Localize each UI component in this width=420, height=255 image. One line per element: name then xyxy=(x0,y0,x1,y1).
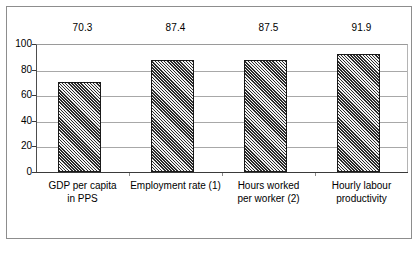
category-label-hourly-productivity: Hourly labour productivity xyxy=(315,180,408,220)
x-tick-mark xyxy=(129,173,130,176)
data-label-cell: 87.5 xyxy=(222,22,315,38)
data-label-value: 70.3 xyxy=(36,22,129,34)
y-tick-label: 40 xyxy=(4,116,32,126)
bar-slot xyxy=(244,44,287,172)
bar-chart: 70.3 87.4 87.5 91.9 100 80 60 40 20 0 xyxy=(0,0,420,255)
data-label-row: 70.3 87.4 87.5 91.9 xyxy=(36,22,408,38)
bar-slot xyxy=(337,44,380,172)
bar-hourly-productivity[interactable] xyxy=(337,54,380,172)
category-label-line: in PPS xyxy=(37,193,128,206)
category-label-employment-rate: Employment rate (1) xyxy=(129,180,222,220)
category-label-hours-worked: Hours worked per worker (2) xyxy=(222,180,315,220)
data-label-cell: 91.9 xyxy=(315,22,408,38)
x-tick-mark xyxy=(222,173,223,176)
y-tick-label: 80 xyxy=(4,65,32,75)
y-tick-label: 60 xyxy=(4,90,32,100)
y-tick-label: 20 xyxy=(4,141,32,151)
y-tick-mark xyxy=(32,172,36,173)
category-label-gdp-per-capita: GDP per capita in PPS xyxy=(36,180,129,220)
data-label-value: 87.5 xyxy=(222,22,315,34)
category-label-line: per worker (2) xyxy=(223,193,314,206)
bar-gdp-per-capita[interactable] xyxy=(58,82,101,172)
data-label-cell: 70.3 xyxy=(36,22,129,38)
category-label-line: Hourly labour xyxy=(316,180,407,193)
category-label-line: Employment rate (1) xyxy=(130,180,221,193)
y-tick-label: 0 xyxy=(4,167,32,177)
y-tick-label: 100 xyxy=(4,39,32,49)
bar-slot xyxy=(58,44,101,172)
bars-layer xyxy=(36,44,408,172)
bar-slot xyxy=(151,44,194,172)
category-label-line: GDP per capita xyxy=(37,180,128,193)
bar-hours-worked[interactable] xyxy=(244,60,287,172)
data-label-value: 87.4 xyxy=(129,22,222,34)
x-axis-category-labels: GDP per capita in PPS Employment rate (1… xyxy=(36,180,408,220)
data-label-value: 91.9 xyxy=(315,22,408,34)
y-axis: 100 80 60 40 20 0 xyxy=(2,0,32,255)
category-label-line: productivity xyxy=(316,193,407,206)
x-tick-mark xyxy=(315,173,316,176)
category-label-line: Hours worked xyxy=(223,180,314,193)
data-label-cell: 87.4 xyxy=(129,22,222,38)
bar-employment-rate[interactable] xyxy=(151,60,194,172)
